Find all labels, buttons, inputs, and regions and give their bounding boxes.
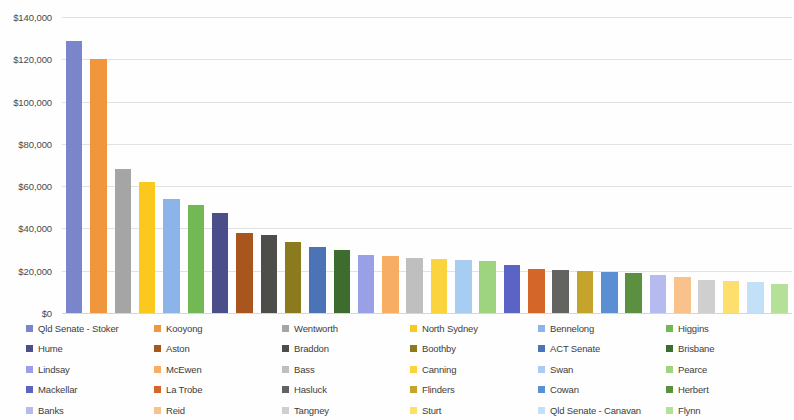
legend-item-label: Mackellar [38, 384, 77, 395]
legend-swatch-icon [410, 407, 417, 414]
legend-item[interactable]: Mackellar [26, 380, 154, 401]
bar[interactable] [261, 235, 278, 313]
legend-item[interactable]: Higgins [666, 318, 794, 339]
legend-item[interactable]: Swan [538, 359, 666, 380]
legend-swatch-icon [666, 366, 673, 373]
legend-item[interactable]: North Sydney [410, 318, 538, 339]
bar[interactable] [747, 282, 764, 313]
legend-item-label: Banks [38, 405, 64, 416]
legend-swatch-icon [154, 366, 161, 373]
legend-item[interactable]: Aston [154, 339, 282, 360]
bar[interactable] [601, 272, 618, 313]
bar-slot [184, 0, 208, 313]
legend-item[interactable]: Canning [410, 359, 538, 380]
legend-swatch-icon [154, 407, 161, 414]
bar-slot [670, 0, 694, 313]
legend-item[interactable]: Hume [26, 339, 154, 360]
bar[interactable] [479, 261, 496, 313]
bar[interactable] [115, 169, 132, 313]
legend-item[interactable]: Cowan [538, 380, 666, 401]
bar[interactable] [358, 255, 375, 313]
y-axis-tick-label: $20,000 [0, 265, 56, 276]
bar-slot [597, 0, 621, 313]
legend-item-label: Brisbane [678, 343, 714, 354]
bar[interactable] [90, 59, 107, 313]
legend-item[interactable]: Reid [154, 400, 282, 420]
legend-item[interactable]: McEwen [154, 359, 282, 380]
legend-item-label: McEwen [166, 364, 202, 375]
legend-item[interactable]: Flinders [410, 380, 538, 401]
bar[interactable] [236, 233, 253, 313]
legend-item[interactable]: Bass [282, 359, 410, 380]
legend-swatch-icon [282, 386, 289, 393]
legend-swatch-icon [666, 386, 673, 393]
legend-swatch-icon [26, 407, 33, 414]
bar[interactable] [66, 41, 83, 313]
bar[interactable] [163, 199, 180, 313]
legend-item[interactable]: La Trobe [154, 380, 282, 401]
bar-slot [743, 0, 767, 313]
legend-item[interactable]: Pearce [666, 359, 794, 380]
legend-item[interactable]: Banks [26, 400, 154, 420]
legend-item-label: Pearce [678, 364, 707, 375]
legend-item-label: Flynn [678, 405, 700, 416]
bar[interactable] [650, 275, 667, 313]
legend-item[interactable]: Hasluck [282, 380, 410, 401]
bar[interactable] [625, 273, 642, 313]
bar[interactable] [188, 205, 205, 313]
bar[interactable] [552, 270, 569, 313]
bar[interactable] [334, 250, 351, 313]
legend-swatch-icon [154, 325, 161, 332]
bar[interactable] [382, 256, 399, 313]
legend-item-label: Qld Senate - Canavan [550, 405, 641, 416]
legend-item[interactable]: Kooyong [154, 318, 282, 339]
legend-item[interactable]: Flynn [666, 400, 794, 420]
legend-swatch-icon [26, 325, 33, 332]
legend-item[interactable]: Qld Senate - Canavan [538, 400, 666, 420]
legend-item[interactable]: Herbert [666, 380, 794, 401]
bar-slot [403, 0, 427, 313]
bar[interactable] [406, 258, 423, 313]
y-axis-tick-label: $140,000 [0, 12, 56, 23]
bar[interactable] [309, 247, 326, 313]
y-axis-tick-label: $60,000 [0, 181, 56, 192]
legend-swatch-icon [410, 325, 417, 332]
legend-swatch-icon [154, 386, 161, 393]
bar-slot [646, 0, 670, 313]
bar[interactable] [723, 281, 740, 313]
plot-area: $0$20,000$40,000$60,000$80,000$100,000$1… [0, 0, 794, 318]
bar[interactable] [674, 277, 691, 313]
legend-item[interactable]: Sturt [410, 400, 538, 420]
bar[interactable] [698, 280, 715, 313]
legend-item[interactable]: Lindsay [26, 359, 154, 380]
bars-layer [62, 0, 792, 313]
bar[interactable] [771, 284, 788, 313]
legend-item-label: Flinders [422, 384, 455, 395]
bar[interactable] [455, 260, 472, 313]
legend-swatch-icon [666, 345, 673, 352]
bar-slot [257, 0, 281, 313]
bar-slot [354, 0, 378, 313]
legend-item[interactable]: Brisbane [666, 339, 794, 360]
bar-slot [330, 0, 354, 313]
legend-item[interactable]: Wentworth [282, 318, 410, 339]
legend-item[interactable]: Tangney [282, 400, 410, 420]
bar[interactable] [528, 269, 545, 313]
legend-item[interactable]: Bennelong [538, 318, 666, 339]
legend-item[interactable]: Boothby [410, 339, 538, 360]
legend-item[interactable]: Qld Senate - Stoker [26, 318, 154, 339]
bar[interactable] [212, 213, 229, 313]
legend-item-label: Canning [422, 364, 456, 375]
legend-swatch-icon [154, 345, 161, 352]
bar[interactable] [285, 242, 302, 313]
legend-item[interactable]: Braddon [282, 339, 410, 360]
bar[interactable] [139, 182, 156, 313]
bar[interactable] [577, 271, 594, 313]
bar[interactable] [504, 265, 521, 313]
legend-item-label: Wentworth [294, 323, 338, 334]
legend-swatch-icon [282, 407, 289, 414]
bar[interactable] [431, 259, 448, 313]
legend-item[interactable]: ACT Senate [538, 339, 666, 360]
bar-slot [549, 0, 573, 313]
bar-slot [135, 0, 159, 313]
